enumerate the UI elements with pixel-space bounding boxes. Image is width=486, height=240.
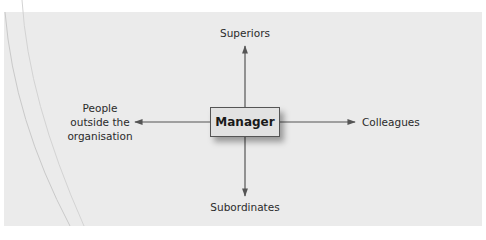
manager-label: Manager <box>215 115 274 129</box>
outside-people-label: People outside the organisation <box>67 101 132 143</box>
superiors-label: Superiors <box>220 26 270 40</box>
outside-people-line-1: People <box>67 101 132 115</box>
subordinates-label: Subordinates <box>210 200 279 214</box>
colleagues-label: Colleagues <box>362 115 420 129</box>
outside-people-line-2: outside the <box>67 115 132 129</box>
manager-box: Manager <box>210 107 280 137</box>
outside-people-line-3: organisation <box>67 129 132 143</box>
